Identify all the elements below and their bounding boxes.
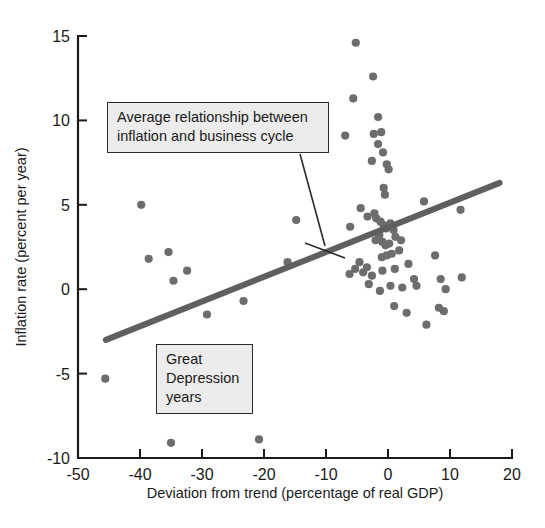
y-tick-label: 10	[52, 112, 70, 129]
data-point	[403, 309, 411, 317]
x-tick-label: -20	[252, 466, 275, 483]
data-point	[183, 267, 191, 275]
data-point	[368, 272, 376, 280]
data-point	[378, 253, 386, 261]
data-point	[404, 260, 412, 268]
data-point	[397, 236, 405, 244]
data-point	[377, 128, 385, 136]
y-tick-label: 15	[52, 28, 70, 45]
data-point	[379, 148, 387, 156]
data-point	[365, 280, 373, 288]
data-point	[456, 206, 464, 214]
x-tick-label: -10	[314, 466, 337, 483]
x-axis-label: Deviation from trend (percentage of real…	[147, 485, 444, 501]
x-axis-ticks: -50-40-30-20-1001020	[66, 449, 521, 483]
data-point	[412, 282, 420, 290]
data-point	[357, 204, 365, 212]
data-point	[372, 236, 380, 244]
x-tick-label: -30	[190, 466, 213, 483]
data-point	[363, 263, 371, 271]
trend-line	[106, 183, 500, 340]
y-tick-label: -10	[47, 450, 70, 467]
data-point	[395, 246, 403, 254]
axes-group	[78, 36, 512, 458]
data-point	[355, 258, 363, 266]
x-tick-label: -40	[128, 466, 151, 483]
data-point	[386, 282, 394, 290]
data-point	[368, 157, 376, 165]
y-tick-label: 0	[61, 281, 70, 298]
x-tick-label: -50	[66, 466, 89, 483]
data-point	[458, 273, 466, 281]
data-point	[390, 302, 398, 310]
x-tick-label: 10	[441, 466, 459, 483]
data-point	[292, 216, 300, 224]
data-point	[137, 201, 145, 209]
data-point	[203, 310, 211, 318]
data-point	[370, 130, 378, 138]
data-point	[345, 270, 353, 278]
data-point	[255, 435, 263, 443]
x-tick-label: 20	[503, 466, 521, 483]
data-point	[341, 131, 349, 139]
data-point	[378, 267, 386, 275]
data-point	[431, 251, 439, 259]
data-point	[101, 375, 109, 383]
callout-leader-line	[300, 154, 325, 246]
data-point	[440, 307, 448, 315]
data-point	[349, 94, 357, 102]
axis-frame	[78, 36, 512, 458]
data-point	[145, 255, 153, 263]
data-point	[239, 297, 247, 305]
y-axis-label: Inflation rate (percent per year)	[13, 147, 29, 346]
data-point	[164, 248, 172, 256]
x-tick-label: 0	[384, 466, 393, 483]
data-point	[374, 113, 382, 121]
data-point	[385, 165, 393, 173]
data-point	[398, 283, 406, 291]
data-point	[374, 140, 382, 148]
data-point	[442, 285, 450, 293]
chart-figure: -50-40-30-20-1001020 -10-5051015 Deviati…	[0, 0, 545, 528]
y-tick-label: -5	[56, 366, 70, 383]
data-point	[381, 191, 389, 199]
data-point	[346, 223, 354, 231]
data-point	[169, 277, 177, 285]
data-point	[376, 287, 384, 295]
data-point	[369, 72, 377, 80]
y-axis-ticks: -10-5051015	[47, 28, 87, 467]
data-point	[167, 439, 175, 447]
data-point	[420, 197, 428, 205]
annotation-great-depression: Great Depression years	[156, 344, 253, 414]
data-point	[437, 275, 445, 283]
annotation-average-relationship: Average relationship between inflation a…	[107, 102, 329, 153]
data-point	[391, 265, 399, 273]
data-point	[422, 321, 430, 329]
data-point	[385, 240, 393, 248]
scatter-plot-svg: -50-40-30-20-1001020 -10-5051015 Deviati…	[0, 0, 545, 528]
data-point	[352, 39, 360, 47]
y-tick-label: 5	[61, 197, 70, 214]
